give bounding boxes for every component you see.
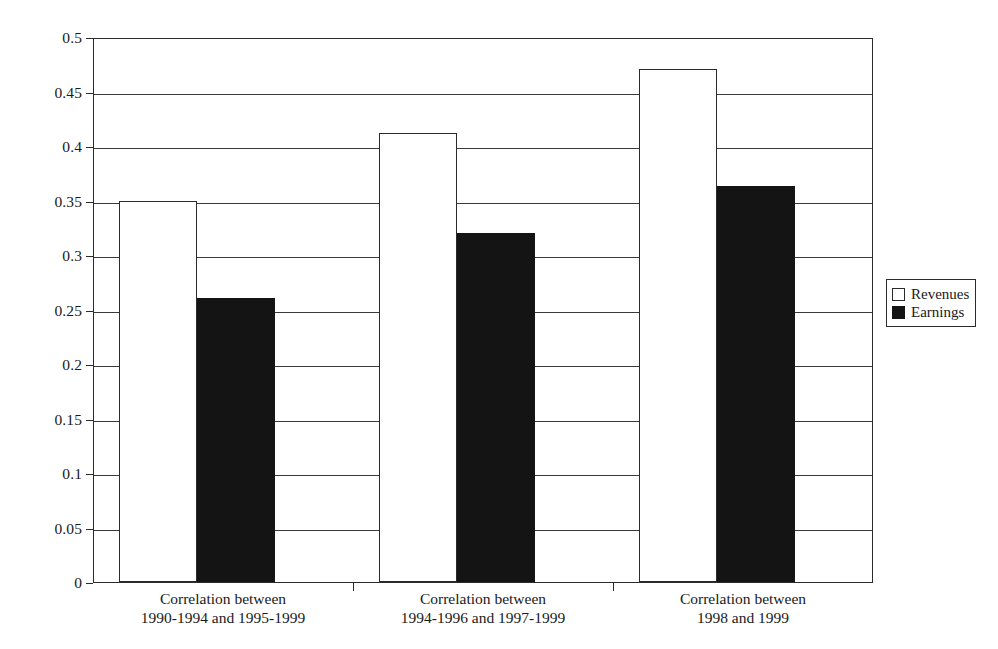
y-tick: 0.05: [0, 521, 82, 537]
legend-label-revenues: Revenues: [911, 287, 969, 302]
y-tick: 0.2: [0, 357, 82, 373]
y-tick: 0: [0, 575, 82, 591]
legend-item-earnings[interactable]: Earnings: [892, 303, 969, 321]
y-tick-mark: [86, 529, 93, 530]
y-tick-label: 0.2: [36, 357, 82, 373]
y-tick-mark: [86, 38, 93, 39]
bar-revenues-group-1[interactable]: [119, 201, 197, 583]
y-tick-label: 0.35: [36, 194, 82, 210]
legend: Revenues Earnings: [886, 279, 976, 327]
y-tick-label: 0.45: [36, 85, 82, 101]
y-tick: 0.25: [0, 303, 82, 319]
y-tick-label: 0.15: [36, 412, 82, 428]
y-tick-mark: [86, 474, 93, 475]
y-tick-label: 0.4: [36, 139, 82, 155]
y-tick: 0.45: [0, 85, 82, 101]
y-tick: 0.3: [0, 248, 82, 264]
gridline: [94, 94, 872, 95]
bar-earnings-group-3[interactable]: [717, 186, 795, 582]
y-tick-mark: [86, 202, 93, 203]
x-axis-label-group-2: Correlation between 1994-1996 and 1997-1…: [353, 590, 613, 628]
bar-earnings-group-1[interactable]: [197, 298, 275, 582]
y-tick: 0.5: [0, 30, 82, 46]
y-tick-mark: [86, 583, 93, 584]
bar-earnings-group-2[interactable]: [457, 233, 535, 582]
x-axis-label-group-1: Correlation between 1990-1994 and 1995-1…: [93, 590, 353, 628]
y-tick-label: 0: [36, 575, 82, 591]
filled-square-icon: [892, 306, 905, 319]
y-tick-mark: [86, 147, 93, 148]
legend-label-earnings: Earnings: [911, 305, 964, 320]
y-tick: 0.4: [0, 139, 82, 155]
y-tick-mark: [86, 311, 93, 312]
bar-chart: 00.050.10.150.20.250.30.350.40.450.5 Cor…: [0, 0, 998, 649]
y-tick-mark: [86, 256, 93, 257]
legend-item-revenues[interactable]: Revenues: [892, 285, 969, 303]
y-tick-mark: [86, 420, 93, 421]
bar-revenues-group-2[interactable]: [379, 133, 457, 582]
gridline: [94, 148, 872, 149]
hollow-square-icon: [892, 288, 905, 301]
x-axis-label-group-3: Correlation between 1998 and 1999: [613, 590, 873, 628]
y-tick-label: 0.25: [36, 303, 82, 319]
bar-revenues-group-3[interactable]: [639, 69, 717, 582]
y-tick-mark: [86, 93, 93, 94]
y-tick-label: 0.05: [36, 521, 82, 537]
y-tick-label: 0.3: [36, 248, 82, 264]
y-tick-label: 0.1: [36, 466, 82, 482]
plot-area: [93, 38, 873, 583]
y-tick-label: 0.5: [36, 30, 82, 46]
y-tick: 0.1: [0, 466, 82, 482]
y-tick: 0.15: [0, 412, 82, 428]
y-tick: 0.35: [0, 194, 82, 210]
y-tick-mark: [86, 365, 93, 366]
